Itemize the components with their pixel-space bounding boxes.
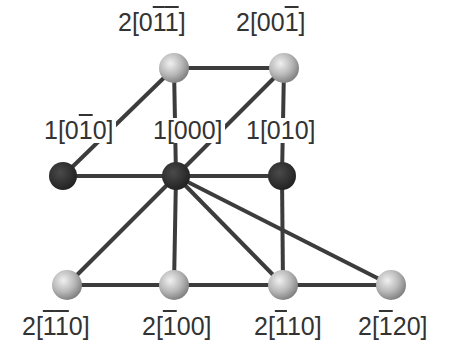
digit-overbar: 1 — [43, 312, 55, 340]
digit-overbar: 1 — [275, 312, 287, 340]
node-label-n_00m1: 2[001] — [234, 10, 308, 35]
digit-overbar: 1 — [165, 8, 179, 36]
node-n_m100 — [159, 270, 189, 300]
edge-n_000-n_m1m10 — [67, 176, 176, 285]
label-prefix: 1[ — [44, 116, 65, 144]
label-prefix: 1[ — [153, 116, 174, 144]
label-suffix: ] — [107, 116, 114, 144]
digit: 0 — [301, 312, 315, 340]
digit: 0 — [271, 8, 285, 36]
label-suffix: ] — [205, 312, 212, 340]
node-n_m110 — [268, 270, 298, 300]
edge-n_000-n_m100 — [174, 176, 176, 285]
node-label-n_m120: 2[120] — [356, 314, 430, 339]
label-prefix: 2[ — [358, 312, 379, 340]
digit: 0 — [69, 312, 83, 340]
label-prefix: 2[ — [254, 312, 275, 340]
label-prefix: 2[ — [236, 8, 257, 36]
digit-overbar: 1 — [163, 312, 177, 340]
digit: 0 — [139, 8, 153, 36]
edge-n_010-n_m110 — [282, 176, 283, 285]
label-prefix: 2[ — [118, 8, 139, 36]
digit: 0 — [295, 116, 309, 144]
label-suffix: ] — [421, 312, 428, 340]
node-n_00m1 — [269, 53, 299, 83]
edge-n_000-n_m110 — [176, 176, 283, 285]
digit: 2 — [393, 312, 407, 340]
digit: 0 — [174, 116, 188, 144]
node-n_0m1m1 — [159, 53, 189, 83]
node-label-n_0m10: 1[010] — [42, 118, 116, 143]
label-suffix: ] — [83, 312, 90, 340]
node-n_m1m10 — [52, 270, 82, 300]
label-suffix: ] — [216, 116, 223, 144]
digit-overbar: 1 — [79, 116, 93, 144]
node-n_010 — [268, 162, 296, 190]
digit: 0 — [188, 116, 202, 144]
label-suffix: ] — [309, 116, 316, 144]
node-n_0m10 — [49, 162, 77, 190]
digit: 0 — [257, 8, 271, 36]
node-label-n_010: 1[010] — [244, 118, 318, 143]
digit-overbar: 1 — [153, 8, 165, 36]
label-prefix: 2[ — [22, 312, 43, 340]
digit: 1 — [281, 116, 295, 144]
digit: 0 — [177, 312, 191, 340]
node-label-n_000: 1[000] — [151, 118, 225, 143]
digit-overbar: 1 — [55, 312, 69, 340]
node-label-n_m1m10: 2[110] — [20, 314, 92, 339]
label-suffix: ] — [315, 312, 322, 340]
digit: 0 — [267, 116, 281, 144]
node-n_m120 — [376, 270, 406, 300]
label-suffix: ] — [299, 8, 306, 36]
digit: 0 — [65, 116, 79, 144]
node-label-n_m110: 2[110] — [252, 314, 324, 339]
label-prefix: 2[ — [142, 312, 163, 340]
digit: 0 — [407, 312, 421, 340]
digit: 0 — [191, 312, 205, 340]
label-suffix: ] — [179, 8, 186, 36]
digit: 0 — [93, 116, 107, 144]
digit-overbar: 1 — [379, 312, 393, 340]
digit-overbar: 1 — [285, 8, 299, 36]
node-n_000 — [162, 162, 190, 190]
digit: 0 — [202, 116, 216, 144]
edges-group — [63, 68, 391, 285]
node-label-n_m100: 2[100] — [140, 314, 214, 339]
label-prefix: 1[ — [246, 116, 267, 144]
node-label-n_0m1m1: 2[011] — [116, 10, 188, 35]
digit: 1 — [287, 312, 301, 340]
lattice-diagram — [0, 0, 460, 358]
